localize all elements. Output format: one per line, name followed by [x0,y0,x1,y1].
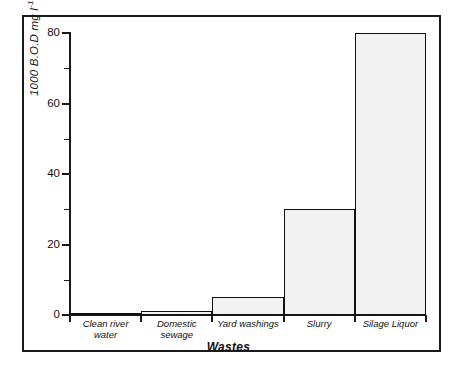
y-tick-major [62,32,69,34]
y-tick-minor [64,139,69,140]
x-category-label-line1: Clean river [83,318,129,329]
bar-silage-liquor [355,33,426,315]
x-category-label: Domesticsewage [141,319,212,340]
x-category-label: Yard washings [212,319,283,330]
x-axis-title: Wastes [0,340,457,354]
figure-canvas: 020406080 1000 B.O.D mg l-1 Oxygen Clean… [0,0,457,365]
x-category-label: Slurry [284,319,355,330]
x-category-label: Clean riverwater [70,319,141,340]
plot-area [70,33,426,315]
y-tick-minor [64,68,69,69]
y-tick-minor [64,209,69,210]
x-category-label: Silage Liquor [355,319,426,330]
x-category-label-line1: Yard washings [217,318,279,329]
x-category-label-line1: Domestic [157,318,197,329]
y-tick-major [62,314,69,316]
x-category-label-line1: Silage Liquor [363,318,418,329]
y-axis-title-superscript: -1 [26,0,35,8]
x-category-label-line2: water [70,330,141,341]
y-axis-title: 1000 B.O.D mg l-1 Oxygen [26,0,40,96]
y-tick-major [62,173,69,175]
y-tick-label: 60 [26,98,60,110]
y-tick-major [62,103,69,105]
bar-slurry [284,209,355,315]
x-category-label-line2: sewage [141,330,212,341]
y-tick-minor [64,280,69,281]
bar-yard-washings [212,297,283,315]
bar-domestic-sewage [141,311,212,315]
y-tick-label: 40 [26,168,60,180]
y-tick-label: 20 [26,239,60,251]
y-tick-major [62,244,69,246]
y-tick-label: 0 [26,309,60,321]
bar-clean-river-water [70,313,141,315]
x-category-label-line1: Slurry [307,318,332,329]
